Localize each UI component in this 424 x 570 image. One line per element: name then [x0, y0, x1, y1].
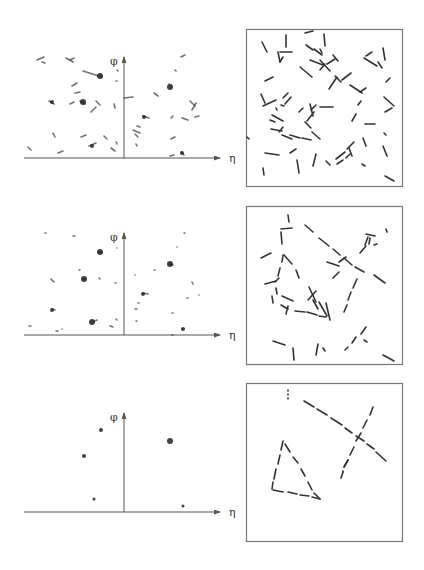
line-segment [293, 348, 294, 360]
line-segment [316, 344, 318, 355]
line-segment [324, 34, 325, 46]
line-segment [273, 341, 285, 345]
line-segment [275, 278, 279, 282]
hough-peak-blob [82, 454, 86, 458]
line-segment [369, 238, 370, 244]
hough-peak [135, 134, 138, 137]
hough-peak [70, 58, 74, 60]
line-segment [304, 401, 314, 407]
hough-peak-blob [90, 144, 94, 148]
line-segment [281, 441, 283, 450]
hough-peak [116, 319, 117, 320]
line-segment [364, 340, 367, 342]
line-segment [383, 146, 387, 156]
line-segment [342, 73, 351, 80]
hough-peak-blob [81, 276, 87, 282]
line-segment [305, 225, 313, 232]
line-segment [350, 447, 354, 455]
line-segment [297, 160, 299, 173]
line-segment [273, 490, 283, 492]
line-segment [353, 279, 357, 288]
hough-peak-blob [182, 505, 185, 508]
line-segment [347, 142, 354, 149]
line-segment [323, 348, 325, 351]
image-space-panel [247, 384, 403, 542]
line-segment [265, 153, 279, 155]
line-segment [348, 292, 351, 300]
hough-peak-blob [97, 249, 103, 255]
line-segment [370, 407, 373, 415]
hough-peak [114, 104, 115, 108]
hough-peak [117, 70, 118, 71]
hough-peak-blob [99, 428, 103, 432]
line-segment [276, 108, 277, 110]
hough-peak [96, 101, 100, 105]
line-segment [360, 88, 366, 92]
hough-peak [175, 70, 176, 71]
line-segment [282, 255, 283, 262]
line-segment [307, 312, 317, 315]
hough-peak [124, 97, 133, 98]
hough-space-plot: ηφ [24, 55, 236, 165]
hough-peak [170, 155, 174, 156]
line-segment [278, 455, 280, 464]
line-segment [288, 492, 297, 494]
line-segment [281, 105, 284, 106]
line-segment [358, 101, 361, 105]
line-segment [295, 311, 305, 312]
hough-peak-blob [80, 99, 86, 105]
hough-peak [83, 71, 99, 76]
line-segment [327, 59, 335, 64]
hough-peak [91, 107, 96, 112]
line-segment [352, 114, 356, 121]
line-segment [337, 160, 343, 164]
hough-peak [72, 83, 77, 86]
line-segment [384, 97, 394, 106]
line-segment [262, 42, 267, 52]
hough-peak-blob [141, 292, 145, 296]
line-segment [278, 52, 280, 62]
hough-space-plot: ηφ [24, 411, 236, 519]
line-segment [362, 164, 365, 166]
line-segment [386, 78, 390, 82]
line-segment [331, 418, 342, 425]
line-segment [280, 57, 283, 62]
line-segment [263, 168, 264, 175]
line-segment [344, 258, 352, 265]
figure-row-3: ηφ [24, 384, 403, 542]
line-segment [366, 52, 372, 56]
hough-peak-blob [50, 308, 54, 312]
line-segment [312, 132, 320, 139]
line-segment [281, 228, 292, 229]
line-segment [306, 45, 313, 50]
line-segment [274, 469, 276, 479]
line-segment [355, 267, 364, 272]
hough-peak [171, 137, 175, 139]
hough-peak [42, 62, 45, 63]
line-segment [308, 482, 312, 490]
hough-peak-blob [180, 151, 184, 155]
line-segment [265, 77, 273, 81]
line-segment [261, 253, 271, 258]
line-segment [383, 48, 385, 60]
line-segment [281, 232, 282, 244]
line-segment [367, 444, 374, 449]
hough-peak [53, 133, 55, 137]
line-segment [317, 409, 327, 415]
line-segment [385, 108, 392, 112]
line-segment [265, 281, 276, 284]
hough-peak [116, 142, 117, 144]
line-segment [344, 460, 348, 467]
hough-peak [171, 116, 173, 118]
line-segment [285, 97, 291, 104]
line-segment [374, 275, 385, 283]
line-segment [363, 138, 366, 146]
line-segment [283, 93, 288, 98]
line-segment [384, 133, 386, 135]
phi-axis-label: φ [110, 231, 118, 244]
hough-peak [195, 116, 199, 117]
image-space-panel [247, 207, 403, 365]
line-segment [290, 149, 296, 153]
eta-axis-label: η [229, 506, 236, 519]
hough-peak-blob [167, 438, 173, 444]
